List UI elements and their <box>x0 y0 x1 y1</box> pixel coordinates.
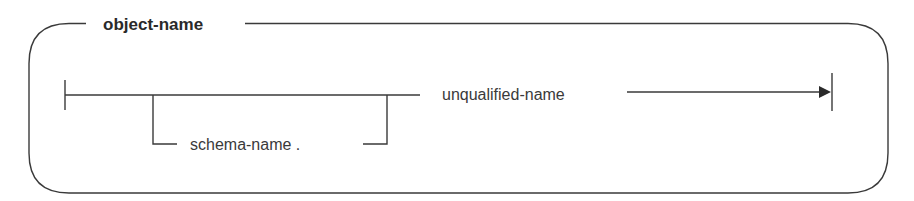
frame-border <box>29 24 888 194</box>
arrow-head-icon <box>819 86 831 98</box>
syntax-diagram: object-name schema-name . unqualified-na… <box>0 0 914 201</box>
unqualified-name-label: unqualified-name <box>442 86 565 103</box>
optional-branch-left <box>153 95 177 144</box>
diagram-title: object-name <box>103 15 203 34</box>
schema-name-label: schema-name . <box>190 136 300 153</box>
optional-branch-right <box>363 95 387 144</box>
